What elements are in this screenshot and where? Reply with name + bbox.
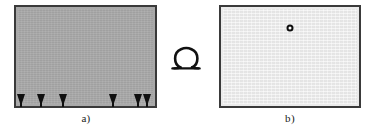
panel-a bbox=[14, 5, 157, 108]
arrow-marker bbox=[37, 94, 45, 106]
panel-b-texture bbox=[223, 9, 357, 104]
arrow-marker bbox=[143, 94, 151, 106]
figure-root: a) b) bbox=[0, 0, 371, 131]
panel-b-frame bbox=[219, 5, 361, 108]
arrow-marker bbox=[134, 94, 142, 106]
arrow-marker bbox=[17, 94, 25, 106]
panel-a-texture bbox=[18, 9, 153, 104]
arrow-marker bbox=[59, 94, 67, 106]
panel-b-caption: b) bbox=[285, 112, 295, 124]
circle-marker bbox=[287, 25, 294, 32]
panel-a-caption: a) bbox=[81, 112, 90, 124]
panel-b bbox=[219, 5, 361, 108]
arrow-marker bbox=[109, 94, 117, 106]
omega-symbol bbox=[169, 44, 203, 74]
panel-a-frame bbox=[14, 5, 157, 108]
